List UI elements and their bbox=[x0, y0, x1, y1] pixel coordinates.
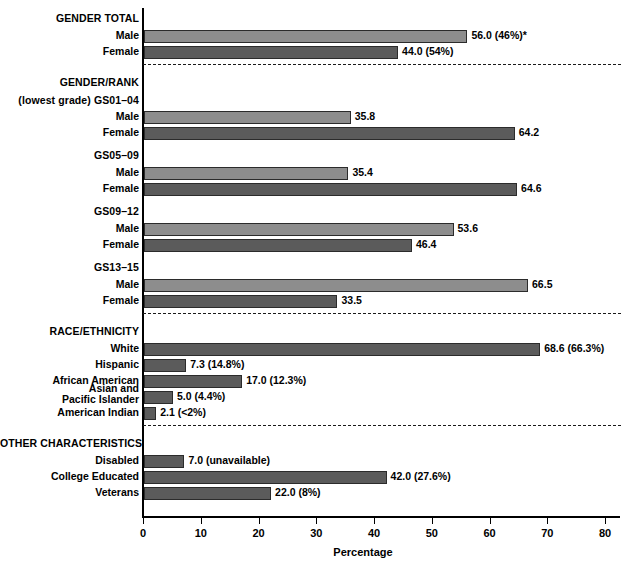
chart-row[interactable]: Male66.5 bbox=[0, 279, 626, 292]
bar-value-label: 66.5 bbox=[528, 278, 552, 291]
row-label: Female bbox=[103, 294, 139, 307]
bar-value-label: 56.0 (46%)* bbox=[467, 29, 526, 42]
row-label: College Educated bbox=[51, 470, 139, 483]
chart-row[interactable]: Veterans22.0 (8%) bbox=[0, 487, 626, 500]
group-heading: GS13–15 bbox=[0, 261, 139, 273]
row-label: Female bbox=[103, 45, 139, 58]
group-heading: OTHER CHARACTERISTICS bbox=[0, 437, 139, 449]
chart-row[interactable]: Male53.6 bbox=[0, 223, 626, 236]
bar[interactable] bbox=[144, 111, 351, 124]
group-heading: RACE/ETHNICITY bbox=[0, 325, 139, 337]
bar[interactable] bbox=[144, 343, 540, 356]
bar-value-label: 7.0 (unavailable) bbox=[184, 454, 270, 467]
bar[interactable] bbox=[144, 279, 528, 292]
x-tick-label: 60 bbox=[470, 527, 510, 539]
row-label: Male bbox=[116, 166, 139, 179]
bar-value-label: 33.5 bbox=[337, 294, 361, 307]
x-axis-title: Percentage bbox=[0, 546, 626, 558]
row-label: American Indian bbox=[57, 406, 139, 419]
bar[interactable] bbox=[144, 239, 412, 252]
group-separator bbox=[143, 64, 621, 65]
x-tick-label: 20 bbox=[239, 527, 279, 539]
bar[interactable] bbox=[144, 455, 184, 468]
bar-value-label: 68.6 (66.3%) bbox=[540, 342, 604, 355]
row-label: Female bbox=[103, 126, 139, 139]
group-heading: GS09–12 bbox=[0, 205, 139, 217]
bar-value-label: 46.4 bbox=[412, 238, 436, 251]
bar[interactable] bbox=[144, 223, 454, 236]
x-tick bbox=[547, 518, 548, 524]
row-label: Male bbox=[116, 29, 139, 42]
bar[interactable] bbox=[144, 391, 173, 404]
chart-row[interactable]: Asian andPacific Islander5.0 (4.4%) bbox=[0, 391, 626, 404]
bar[interactable] bbox=[144, 46, 398, 59]
x-tick bbox=[605, 518, 606, 524]
bar[interactable] bbox=[144, 167, 348, 180]
bar-value-label: 22.0 (8%) bbox=[271, 486, 321, 499]
bar-value-label: 7.3 (14.8%) bbox=[186, 358, 244, 371]
x-tick-label: 80 bbox=[585, 527, 625, 539]
bar[interactable] bbox=[144, 127, 515, 140]
bar-value-label: 64.6 bbox=[517, 182, 541, 195]
bar[interactable] bbox=[144, 407, 156, 420]
bar-value-label: 17.0 (12.3%) bbox=[242, 374, 306, 387]
bar-value-label: 53.6 bbox=[454, 222, 478, 235]
x-tick-label: 0 bbox=[123, 527, 163, 539]
bar[interactable] bbox=[144, 375, 242, 388]
bar-value-label: 5.0 (4.4%) bbox=[173, 390, 225, 403]
x-tick bbox=[490, 518, 491, 524]
bar[interactable] bbox=[144, 471, 387, 484]
chart-row[interactable]: Male35.4 bbox=[0, 167, 626, 180]
group-subheading: (lowest grade) GS01–04 bbox=[0, 94, 139, 106]
x-axis-line bbox=[142, 516, 620, 518]
x-tick bbox=[259, 518, 260, 524]
chart-row[interactable]: Female46.4 bbox=[0, 239, 626, 252]
x-tick bbox=[374, 518, 375, 524]
x-tick bbox=[143, 518, 144, 524]
group-separator bbox=[143, 425, 621, 426]
row-label: Asian andPacific Islander bbox=[4, 383, 139, 405]
x-tick-label: 40 bbox=[354, 527, 394, 539]
x-tick bbox=[432, 518, 433, 524]
chart-row[interactable]: Female64.2 bbox=[0, 127, 626, 140]
bar-chart: 01020304050607080 GENDER TOTALMale56.0 (… bbox=[0, 0, 626, 569]
bar-value-label: 2.1 (<2%) bbox=[156, 406, 206, 419]
x-tick-label: 30 bbox=[296, 527, 336, 539]
chart-row[interactable]: Female44.0 (54%) bbox=[0, 46, 626, 59]
chart-row[interactable]: Female33.5 bbox=[0, 295, 626, 308]
x-tick-label: 50 bbox=[412, 527, 452, 539]
chart-row[interactable]: Male56.0 (46%)* bbox=[0, 30, 626, 43]
row-label: White bbox=[110, 342, 139, 355]
y-axis-line bbox=[142, 8, 144, 518]
x-tick-label: 70 bbox=[527, 527, 567, 539]
group-heading: GENDER/RANK bbox=[0, 76, 139, 88]
x-tick bbox=[201, 518, 202, 524]
chart-row[interactable]: Disabled7.0 (unavailable) bbox=[0, 455, 626, 468]
bar-value-label: 44.0 (54%) bbox=[398, 45, 453, 58]
group-heading: GENDER TOTAL bbox=[0, 12, 139, 24]
chart-row[interactable]: American Indian2.1 (<2%) bbox=[0, 407, 626, 420]
row-label: Male bbox=[116, 278, 139, 291]
x-tick bbox=[316, 518, 317, 524]
group-separator bbox=[143, 313, 621, 314]
row-label: Male bbox=[116, 110, 139, 123]
chart-row[interactable]: White68.6 (66.3%) bbox=[0, 343, 626, 356]
bar[interactable] bbox=[144, 30, 467, 43]
bar-value-label: 64.2 bbox=[515, 126, 539, 139]
bar[interactable] bbox=[144, 359, 186, 372]
row-label: Disabled bbox=[95, 454, 139, 467]
bar-value-label: 35.4 bbox=[348, 166, 372, 179]
chart-row[interactable]: Hispanic7.3 (14.8%) bbox=[0, 359, 626, 372]
chart-row[interactable]: College Educated42.0 (27.6%) bbox=[0, 471, 626, 484]
bar[interactable] bbox=[144, 183, 517, 196]
row-label: Female bbox=[103, 182, 139, 195]
chart-row[interactable]: Male35.8 bbox=[0, 111, 626, 124]
row-label: Hispanic bbox=[95, 358, 139, 371]
row-label: Male bbox=[116, 222, 139, 235]
bar[interactable] bbox=[144, 295, 337, 308]
group-heading: GS05–09 bbox=[0, 149, 139, 161]
bar-value-label: 35.8 bbox=[351, 110, 375, 123]
bar[interactable] bbox=[144, 487, 271, 500]
row-label: Veterans bbox=[95, 486, 139, 499]
chart-row[interactable]: Female64.6 bbox=[0, 183, 626, 196]
